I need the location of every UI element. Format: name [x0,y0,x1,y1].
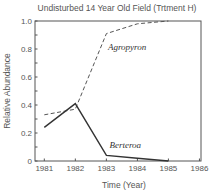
y-tick-label: 1.0 [21,17,33,26]
series-label-agropyron: Agropyron [107,42,147,52]
series-group: AgropyronBerteroa [44,21,168,161]
y-tick-label: 0 [28,157,33,166]
x-tick-label: 1984 [128,164,146,173]
x-tick-label: 1983 [97,164,115,173]
y-tick-label: 0.6 [21,73,33,82]
series-line-berteroa [44,104,168,161]
x-tick-label: 1985 [160,164,178,173]
x-tick-label: 1982 [66,164,84,173]
x-axis-label: Time (Year) [102,180,146,190]
y-tick-label: 0.8 [21,45,33,54]
y-tick-label: 0.4 [21,101,33,110]
series-line-agropyron [44,21,168,115]
y-axis-label: Relative Abundance [2,53,12,129]
x-tick-label: 1981 [35,164,53,173]
series-label-berteroa: Berteroa [109,140,141,150]
chart-title: Undisturbed 14 Year Old Field (Trtment H… [38,3,197,13]
y-tick-label: 0.2 [21,129,33,138]
x-tick-label: 1986 [191,164,209,173]
chart: Undisturbed 14 Year Old Field (Trtment H… [0,0,215,196]
